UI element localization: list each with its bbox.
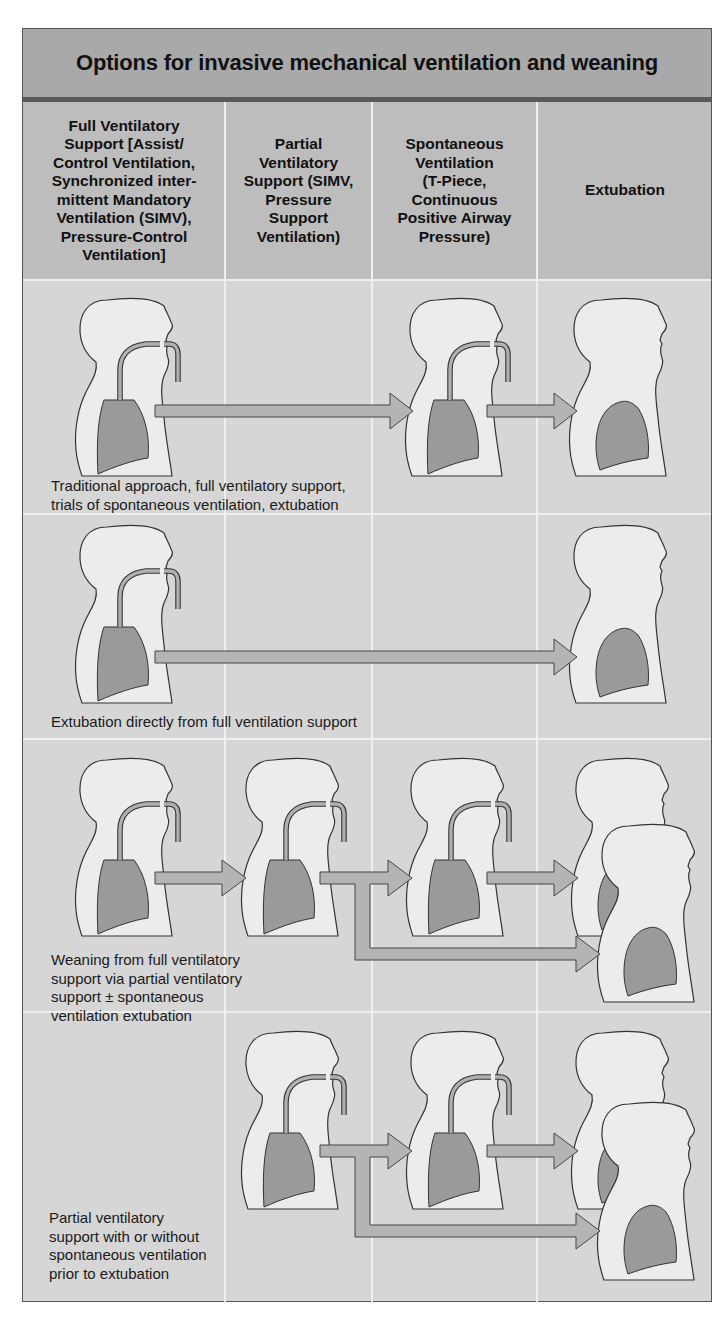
patient-intubated-icon	[75, 298, 178, 476]
patient-intubated-icon	[406, 758, 509, 936]
row-weaning-figures	[75, 758, 694, 1002]
arrow-right-icon	[487, 860, 578, 896]
patient-extubated-icon	[597, 824, 694, 1002]
patient-intubated-icon	[75, 525, 178, 703]
row-partial-only-figures	[241, 1031, 694, 1280]
arrow-right-icon	[155, 860, 246, 896]
arrow-right-icon	[155, 393, 413, 429]
illustration-layer	[0, 0, 723, 1319]
patient-intubated-icon	[406, 1031, 509, 1209]
arrow-right-icon	[487, 393, 577, 429]
row-direct-figures	[75, 525, 666, 703]
row-traditional-figures	[75, 298, 666, 476]
patient-intubated-icon	[405, 298, 508, 476]
patient-extubated-icon	[569, 525, 666, 703]
patient-intubated-icon	[241, 758, 344, 936]
patient-extubated-icon	[569, 298, 666, 476]
patient-intubated-icon	[241, 1031, 344, 1209]
arrow-right-icon	[155, 639, 577, 675]
patient-intubated-icon	[75, 758, 178, 936]
arrow-right-icon	[487, 1133, 578, 1169]
patient-extubated-icon	[597, 1102, 694, 1280]
